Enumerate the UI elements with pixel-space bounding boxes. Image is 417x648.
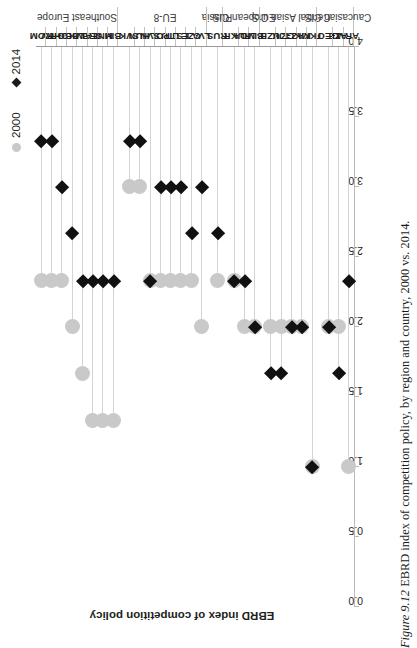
figure-caption: Figure 9.12 EBRD index of competition po…	[398, 0, 417, 648]
baseline-connector	[328, 47, 329, 327]
baseline-connector	[180, 47, 181, 187]
country-code: ROM	[29, 31, 51, 42]
value-axis: EBRD index of competition policy	[36, 610, 354, 648]
baseline-connector	[217, 47, 218, 233]
baseline-connector	[244, 47, 245, 281]
legend-item-2014: 2014	[10, 49, 22, 87]
connector-line	[102, 281, 103, 421]
baseline-connector	[348, 47, 349, 281]
connector-line	[41, 141, 42, 281]
baseline-connector	[234, 47, 235, 281]
legend-label-2014: 2014	[10, 49, 22, 75]
connector-line	[113, 281, 114, 421]
country-label-cell: UZB	[266, 27, 276, 46]
baseline-connector	[139, 47, 140, 141]
baseline-connector	[51, 47, 52, 141]
chart-row	[320, 47, 337, 607]
region-label-cell: Russia	[213, 7, 223, 28]
legend-label-2000: 2000	[10, 112, 22, 138]
data-point-2014	[123, 134, 136, 147]
connector-line	[180, 187, 181, 281]
country-label-column: ARMAZEGEOTKMKAZKGZTJKUZBBLRMDAUKRRUSLVAC…	[36, 27, 354, 47]
connector-line	[170, 187, 171, 281]
chart-legend: 2000 2014	[10, 49, 22, 152]
circle-marker-icon	[12, 143, 21, 152]
baseline-connector	[191, 47, 192, 233]
baseline-connector	[301, 47, 302, 327]
baseline-connector	[82, 47, 83, 281]
data-point-2014	[34, 134, 47, 147]
connector-line	[160, 187, 161, 281]
connector-line	[92, 281, 93, 421]
data-point-2014	[264, 366, 277, 379]
baseline-connector	[291, 47, 292, 327]
baseline-connector	[113, 47, 114, 281]
baseline-connector	[72, 47, 73, 233]
baseline-connector	[41, 47, 42, 141]
region-label-column: Caucasian CISCentral Asian CISEuropean C…	[36, 7, 354, 28]
data-point-2000	[75, 366, 90, 381]
chart-row	[262, 47, 279, 607]
legend-item-2000: 2000	[10, 112, 22, 152]
baseline-connector	[61, 47, 62, 187]
region-name: Southeast Europe	[37, 12, 117, 23]
region-name: EU-8	[154, 12, 177, 23]
baseline-connector	[201, 47, 202, 187]
figure-number: Figure 9.12	[398, 590, 412, 648]
country-label-cell: GEO	[323, 27, 333, 46]
data-point-2000	[341, 460, 356, 475]
baseline-connector	[92, 47, 93, 281]
region-label-cell: Southeast Europe	[36, 7, 118, 28]
baseline-connector	[281, 47, 282, 327]
connector-line	[348, 281, 349, 467]
data-point-2000	[34, 273, 49, 288]
chart-row	[33, 47, 50, 607]
baseline-connector	[150, 47, 151, 281]
country-label-cell: UKR	[229, 27, 239, 46]
baseline-connector	[160, 47, 161, 187]
country-code: RUS	[207, 31, 227, 42]
connector-line	[201, 187, 202, 327]
baseline-connector	[270, 47, 271, 327]
country-label-cell: ROM	[36, 27, 46, 46]
diamond-marker-icon	[11, 78, 21, 88]
baseline-connector	[312, 47, 313, 467]
connector-line	[61, 187, 62, 281]
baseline-connector	[102, 47, 103, 281]
data-point-2000	[210, 273, 225, 288]
data-point-2000	[65, 320, 80, 335]
connector-line	[82, 281, 83, 373]
baseline-connector	[338, 47, 339, 327]
connector-line	[72, 233, 73, 327]
baseline-connector	[254, 47, 255, 327]
data-rows	[36, 47, 354, 607]
baseline-connector	[129, 47, 130, 141]
country-label-cell: SVK	[124, 27, 134, 46]
chart-row	[209, 47, 226, 607]
country-label-cell: RUS	[213, 27, 223, 46]
region-label-cell: EU-8	[124, 7, 206, 28]
axis-title: EBRD index of competition policy	[62, 610, 302, 622]
data-point-2014	[211, 226, 224, 239]
chart-row	[121, 47, 138, 607]
baseline-connector	[170, 47, 171, 187]
country-code: SVK	[119, 31, 139, 42]
connector-line	[51, 141, 52, 281]
region-label-cell: European CIS	[229, 7, 260, 28]
figure-caption-text: EBRD index of competition policy, by reg…	[398, 221, 412, 587]
data-point-2000	[194, 320, 209, 335]
